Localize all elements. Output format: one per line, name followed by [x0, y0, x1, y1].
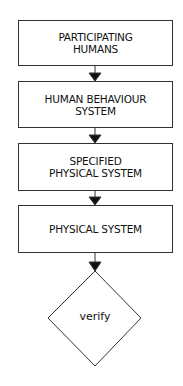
- node-label-line: PHYSICAL SYSTEM: [49, 223, 142, 235]
- node-participating-humans: PARTICIPATING HUMANS: [18, 20, 173, 66]
- arrow-down-icon: [89, 135, 101, 143]
- arrow-down-icon: [89, 73, 101, 81]
- node-physical-system: PHYSICAL SYSTEM: [18, 205, 173, 253]
- arrow-down-icon: [89, 197, 101, 205]
- arrow-down-icon: [89, 262, 101, 271]
- node-label-line: PARTICIPATING: [58, 31, 132, 43]
- node-human-behaviour-system: HUMAN BEHAVIOUR SYSTEM: [18, 81, 173, 128]
- node-label-line: HUMAN BEHAVIOUR: [45, 93, 147, 105]
- node-label-line: SPECIFIED: [49, 155, 142, 167]
- verify-label: verify: [48, 310, 142, 323]
- node-label-line: HUMANS: [58, 43, 132, 55]
- node-label-line: PHYSICAL SYSTEM: [49, 167, 142, 179]
- node-label-line: SYSTEM: [45, 105, 147, 117]
- node-specified-physical-system: SPECIFIED PHYSICAL SYSTEM: [18, 143, 173, 191]
